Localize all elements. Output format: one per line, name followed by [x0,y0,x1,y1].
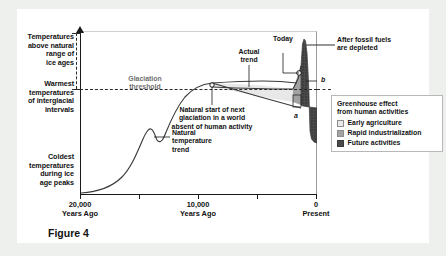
glaciation-threshold-line-extension [317,89,331,90]
glaciation-threshold-line [80,89,317,90]
marker-b-label: b [321,76,325,83]
figure-caption: Figure 4 [48,227,89,239]
legend-swatch-rapid-industrialization [337,130,344,137]
legend-item-future-activities: Future activities [337,139,437,147]
figure-card: Temperatures above natural range of ice … [17,9,429,243]
x-label-20000: 20,000 Years Ago [47,200,113,218]
marker-a-label: a [294,112,298,119]
annotation-natural-start-glaciation: Natural start of next glaciation in a wo… [160,106,264,131]
x-label-0-present: 0 Present [283,200,349,218]
legend-label-early-agriculture: Early agriculture [348,119,402,127]
legend-label-future-activities: Future activities [348,139,401,147]
legend-label-rapid-industrialization: Rapid industrialization [348,129,422,137]
y-label-warmest-interglacial: Warmest temperatures of interglacial int… [17,80,74,114]
y-label-above-natural-range: Temperatures above natural range of ice … [17,33,74,67]
x-tick-20000 [80,194,81,199]
legend-item-rapid-industrialization: Rapid industrialization [337,129,437,137]
x-tick-5000 [257,194,258,199]
y-label-coldest-ice-age: Coldest temperatures during ice age peak… [17,153,74,187]
x-tick-10000 [198,194,199,199]
annotation-today: Today [266,35,300,43]
x-tick-15000 [139,194,140,199]
figure-container: Temperatures above natural range of ice … [0,0,446,256]
legend-swatch-early-agriculture [337,120,344,127]
y-axis-arrow-icon [76,26,84,33]
legend-swatch-future-activities [337,140,344,147]
x-tick-0 [316,194,317,199]
y-axis-line [80,31,81,194]
legend-title: Greenhouse effect from human activities [337,100,437,117]
legend-item-early-agriculture: Early agriculture [337,119,437,127]
legend: Greenhouse effect from human activities … [331,95,443,152]
annotation-glaciation-threshold: Glaciation threshold [118,75,172,92]
annotation-natural-temperature-trend: Natural temperature trend [172,129,222,154]
x-label-10000: 10,000 Years Ago [165,200,231,218]
above-range-bracket [76,33,77,89]
annotation-after-fossil-fuels: After fossil fuels are depleted [337,36,433,53]
annotation-actual-trend: Actual trend [227,48,271,65]
